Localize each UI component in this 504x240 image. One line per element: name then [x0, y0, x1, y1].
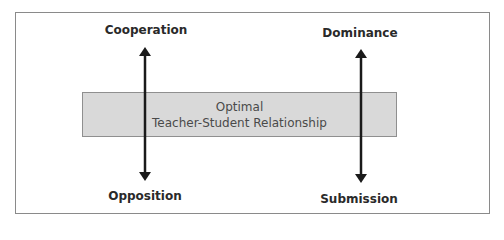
cooperation-label: Cooperation [105, 23, 188, 37]
band-line-2: Teacher-Student Relationship [152, 115, 327, 131]
optimal-relationship-label: Optimal Teacher-Student Relationship [82, 92, 397, 137]
opposition-label: Opposition [108, 189, 182, 203]
band-line-1: Optimal [216, 99, 263, 115]
dominance-label: Dominance [322, 26, 397, 40]
submission-label: Submission [320, 192, 398, 206]
